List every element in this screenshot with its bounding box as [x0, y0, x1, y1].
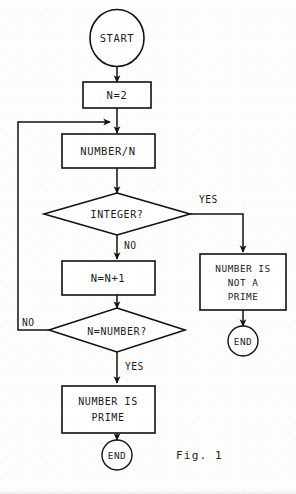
node-integer-test-label: INTEGER?	[91, 209, 144, 220]
edge-label-number-yes: YES	[125, 361, 144, 372]
node-divide-label: NUMBER/N	[80, 145, 135, 157]
node-number-test-label: N=NUMBER?	[87, 326, 147, 337]
edge-integer-yes-to-notprime	[190, 214, 243, 252]
node-start-label: START	[100, 32, 135, 44]
node-init-label: N=2	[107, 89, 128, 101]
node-prime-line2: PRIME	[91, 412, 124, 423]
node-increment-label: N=N+1	[91, 272, 126, 284]
node-end-bottom-label: END	[108, 450, 126, 461]
figure-page: START N=2 NUMBER/N INTEGER? NUMBER IS NO…	[0, 0, 296, 494]
node-prime	[62, 386, 155, 433]
node-prime-line1: NUMBER IS	[78, 396, 138, 407]
edge-label-integer-no: NO	[124, 240, 137, 251]
node-not-prime-line3: PRIME	[228, 291, 259, 302]
edge-label-integer-yes: YES	[199, 194, 218, 205]
flowchart-canvas: START N=2 NUMBER/N INTEGER? NUMBER IS NO…	[0, 0, 296, 494]
node-end-right-label: END	[234, 336, 252, 347]
edge-label-number-no: NO	[22, 317, 35, 328]
node-not-prime-line1: NUMBER IS	[215, 263, 270, 274]
figure-caption: Fig. 1	[176, 449, 223, 462]
node-not-prime-line2: NOT A	[228, 277, 259, 288]
